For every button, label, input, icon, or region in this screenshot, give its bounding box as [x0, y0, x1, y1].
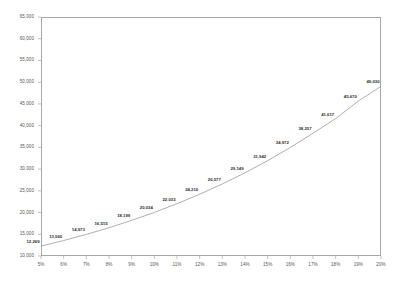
data-point-label: 18,199 — [117, 213, 130, 218]
data-point-label: 16,515 — [94, 220, 107, 225]
x-axis-tick-label: 12% — [188, 262, 212, 267]
data-point-label: 12,269 — [26, 239, 39, 244]
y-axis-tick-label: 25,000 — [4, 188, 34, 193]
data-point-label: 49,030 — [366, 79, 379, 84]
plot-area — [41, 17, 381, 256]
y-axis-tick-label: 20,000 — [4, 210, 34, 215]
data-point-label: 41,617 — [321, 111, 334, 116]
data-point-label: 34,972 — [276, 140, 289, 145]
x-axis-tick-label: 15% — [256, 262, 280, 267]
y-axis-tick-label: 65,000 — [4, 14, 34, 19]
data-point-label: 22,033 — [162, 196, 175, 201]
x-axis-tick-label: 11% — [165, 262, 189, 267]
y-axis-tick-label: 10,000 — [4, 253, 34, 258]
x-axis-tick-label: 19% — [346, 262, 370, 267]
y-axis-tick-label: 55,000 — [4, 57, 34, 62]
y-axis-tick-label: 15,000 — [4, 231, 34, 236]
x-axis-tick-label: 9% — [120, 262, 144, 267]
y-axis-tick-label: 50,000 — [4, 79, 34, 84]
x-axis-tick-label: 18% — [324, 262, 348, 267]
y-axis-tick-label: 35,000 — [4, 144, 34, 149]
x-axis-tick-label: 5% — [29, 262, 53, 267]
data-point-label: 29,149 — [230, 165, 243, 170]
data-point-label: 14,973 — [72, 227, 85, 232]
y-axis-tick-label: 30,000 — [4, 166, 34, 171]
x-axis-tick-label: 6% — [52, 262, 76, 267]
x-axis-tick-label: 8% — [97, 262, 121, 267]
x-axis-tick-label: 20% — [369, 262, 393, 267]
data-point-label: 31,942 — [253, 153, 266, 158]
x-axis-tick-label: 17% — [301, 262, 325, 267]
data-point-label: 45,670 — [344, 93, 357, 98]
y-axis-tick-label: 60,000 — [4, 36, 34, 41]
data-point-label: 20,034 — [140, 205, 153, 210]
data-point-label: 24,210 — [185, 187, 198, 192]
data-point-label: 13,560 — [49, 233, 62, 238]
x-axis-tick-label: 14% — [233, 262, 257, 267]
x-axis-tick-label: 16% — [278, 262, 302, 267]
y-axis-tick-label: 45,000 — [4, 101, 34, 106]
data-point-label: 26,577 — [208, 176, 221, 181]
x-axis-tick-label: 13% — [210, 262, 234, 267]
data-point-label: 38,257 — [298, 126, 311, 131]
x-axis-tick-label: 10% — [142, 262, 166, 267]
y-axis-tick-label: 40,000 — [4, 123, 34, 128]
line-chart: 10,00015,00020,00025,00030,00035,00040,0… — [0, 0, 408, 283]
x-axis-tick-label: 7% — [74, 262, 98, 267]
